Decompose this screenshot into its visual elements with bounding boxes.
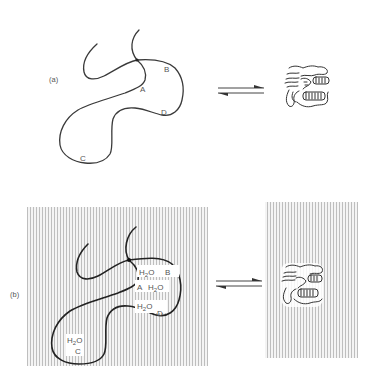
point-A-b: A bbox=[137, 283, 143, 292]
point-C-a: C bbox=[80, 154, 86, 163]
disulfide-junction-a bbox=[135, 58, 138, 61]
point-A-a: A bbox=[140, 85, 146, 94]
unfolded-chain-a bbox=[60, 30, 183, 163]
point-D-a: D bbox=[161, 108, 167, 117]
point-B-a: B bbox=[164, 65, 169, 74]
folded-protein-a bbox=[285, 66, 329, 107]
panel-a: (a) B A D C bbox=[49, 30, 329, 163]
disulfide-junction-b bbox=[127, 258, 131, 262]
equilibrium-arrows-a bbox=[218, 85, 264, 96]
panel-a-label: (a) bbox=[49, 75, 59, 84]
folded-protein-b bbox=[281, 263, 323, 307]
panel-b-label: (b) bbox=[10, 290, 20, 299]
point-C-b: C bbox=[75, 347, 81, 356]
point-B-b: B bbox=[165, 268, 170, 277]
point-D-b: D bbox=[157, 309, 163, 318]
protein-folding-diagram: (a) B A D C (b) bbox=[0, 0, 379, 383]
equilibrium-arrows-b bbox=[216, 278, 262, 289]
panel-b: (b) H2O B A H2O H2O D H2O C bbox=[10, 202, 358, 366]
